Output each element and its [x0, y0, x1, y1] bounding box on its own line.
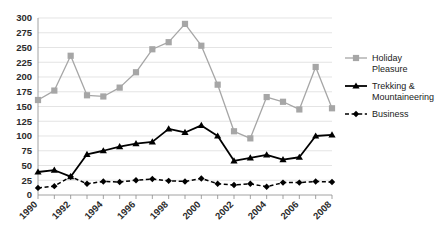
data-point-marker [51, 87, 57, 93]
series-1 [35, 21, 335, 142]
x-axis-tick-label: 1994 [82, 198, 105, 221]
line-chart: 0255075100125150175200225250275300 19901… [0, 0, 440, 236]
series-3 [35, 174, 335, 192]
legend-label-line2: Mountaineering [372, 92, 434, 102]
y-axis-tick-label: 200 [16, 71, 32, 82]
data-point-marker [84, 181, 90, 187]
legend-label: Holiday [372, 53, 403, 63]
data-point-marker [247, 135, 253, 141]
data-point-marker [329, 179, 335, 185]
data-point-marker [100, 178, 106, 184]
data-point-marker [165, 125, 172, 131]
data-point-marker [165, 178, 171, 184]
data-point-marker [182, 21, 188, 27]
data-point-marker [133, 177, 139, 183]
data-point-marker [182, 178, 188, 184]
x-axis-tick-label: 1992 [49, 199, 72, 222]
data-point-marker [198, 122, 205, 128]
y-axis-tick-label: 100 [16, 130, 32, 141]
legend-marker [353, 111, 359, 117]
data-point-marker [166, 39, 172, 45]
y-axis-tick-label: 300 [16, 12, 32, 23]
x-axis-tick-labels: 1990199219941996199820002002200420062008 [17, 198, 334, 221]
x-axis-tick-label: 1996 [115, 199, 138, 222]
y-axis-tick-label: 75 [21, 145, 32, 156]
x-axis-tick-label: 1990 [17, 199, 40, 222]
data-point-marker [313, 64, 319, 70]
y-axis-tick-label: 225 [16, 57, 33, 68]
data-point-marker [68, 53, 74, 59]
x-axis-tick-label: 2000 [180, 199, 203, 222]
data-point-marker [149, 46, 155, 52]
data-point-marker [263, 184, 269, 190]
y-axis-tick-label: 175 [16, 86, 33, 97]
legend-entry-1[interactable]: HolidayPleasure [345, 53, 408, 74]
x-axis-tick-marks [38, 195, 332, 199]
y-axis-tick-label: 150 [16, 101, 32, 112]
legend-label: Trekking & [372, 81, 415, 91]
data-point-marker [296, 106, 302, 112]
legend-label: Business [372, 109, 409, 119]
data-point-marker [329, 105, 335, 111]
legend-marker [353, 55, 359, 61]
chart-canvas: 0255075100125150175200225250275300 19901… [0, 0, 440, 236]
chart-legend: HolidayPleasureTrekking &MountaineeringB… [345, 53, 434, 119]
y-axis-tick-label: 125 [16, 116, 33, 127]
data-point-marker [198, 175, 204, 181]
legend-entry-3[interactable]: Business [345, 109, 409, 119]
x-axis-tick-label: 2004 [245, 198, 268, 221]
y-axis-tick-label: 25 [21, 175, 32, 186]
data-point-marker [116, 179, 122, 185]
data-point-marker [51, 183, 57, 189]
data-point-marker [247, 181, 253, 187]
grid-lines [38, 18, 332, 180]
data-point-marker [280, 99, 286, 105]
x-axis-tick-label: 2006 [278, 199, 301, 222]
legend-entry-2[interactable]: Trekking &Mountaineering [345, 81, 434, 102]
x-axis-tick-label: 2002 [213, 199, 236, 222]
data-point-marker [149, 176, 155, 182]
data-point-marker [35, 185, 41, 191]
data-point-marker [133, 69, 139, 75]
data-point-marker [35, 97, 41, 103]
y-axis-tick-label: 275 [16, 27, 33, 38]
x-axis-tick-label: 1998 [147, 199, 170, 222]
data-point-marker [84, 92, 90, 98]
data-point-marker [312, 178, 318, 184]
data-point-marker [264, 94, 270, 100]
y-axis-tick-label: 50 [21, 160, 32, 171]
data-point-marker [198, 43, 204, 49]
data-point-marker [117, 85, 123, 91]
legend-label-line2: Pleasure [372, 64, 408, 74]
data-point-marker [215, 82, 221, 88]
y-axis-tick-labels: 0255075100125150175200225250275300 [16, 12, 33, 200]
data-point-marker [100, 93, 106, 99]
data-point-marker [231, 128, 237, 134]
data-point-marker [231, 182, 237, 188]
y-axis-tick-label: 250 [16, 42, 32, 53]
x-axis-tick-label: 2008 [311, 199, 334, 222]
data-point-marker [214, 181, 220, 187]
data-point-marker [263, 151, 270, 157]
